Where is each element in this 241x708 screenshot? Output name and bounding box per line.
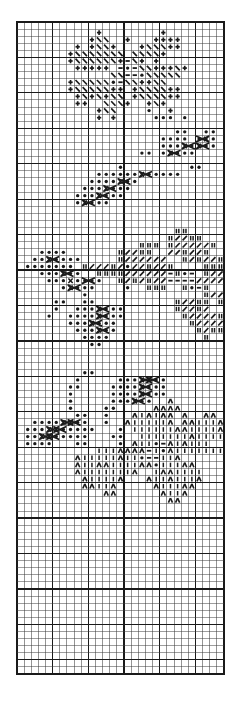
stitch-cell: [97, 87, 101, 92]
stitch-cell: [40, 421, 43, 424]
stitch-cell: [118, 52, 122, 57]
stitch-cell: [83, 314, 86, 317]
stitch-cell: [212, 243, 214, 248]
stitch-cell: [83, 414, 86, 417]
stitch-cell: [76, 201, 79, 204]
stitch-cell: [69, 314, 72, 317]
stitch-cell: [140, 80, 144, 85]
stitch-cell: [141, 250, 143, 255]
stitch-cell: [90, 94, 94, 99]
stitch-cell: [176, 406, 180, 411]
stitch-cell: [204, 130, 207, 133]
stitch-cell: [175, 236, 179, 241]
stitch-cell: [69, 435, 72, 438]
stitch-cell: [55, 307, 58, 310]
stitch-cell: [176, 307, 178, 312]
stitch-cell: [125, 257, 129, 262]
stitch-cell: [212, 328, 214, 333]
stitch-cell: [161, 470, 165, 475]
stitch-cell: [155, 116, 158, 119]
stitch-cell: [112, 399, 115, 402]
stitch-cell: [161, 491, 165, 496]
stitch-cell: [83, 101, 87, 106]
stitch-cell: [183, 484, 187, 489]
stitch-cell: [133, 94, 137, 99]
stitch-cell: [183, 130, 186, 133]
stitch-cell: [219, 257, 221, 262]
stitch-cell: [47, 272, 50, 275]
stitch-cell: [212, 137, 215, 140]
stitch-cell: [118, 94, 122, 99]
stitch-cell: [155, 392, 158, 395]
stitch-cell: [133, 264, 137, 269]
stitch-cell: [168, 66, 172, 71]
stitch-cell: [211, 278, 215, 283]
stitch-cell: [219, 314, 221, 319]
stitch-cell: [97, 30, 101, 35]
stitch-cell: [119, 173, 122, 176]
stitch-cell: [76, 80, 80, 85]
stitch-cell: [118, 59, 122, 64]
stitch-cell: [154, 80, 158, 85]
stitch-cell: [155, 442, 158, 445]
stitch-cell: [83, 80, 87, 85]
grid-lines: [17, 22, 224, 674]
stitch-cell: [90, 307, 93, 310]
stitch-cell: [183, 66, 187, 71]
stitch-cell: [112, 81, 115, 84]
stitch-cell: [161, 101, 165, 106]
stitch-cell: [147, 257, 151, 262]
stitch-cell: [119, 385, 122, 388]
stitch-cell: [154, 87, 158, 92]
stitch-cell: [104, 108, 108, 113]
stitch-cell: [147, 271, 151, 276]
stitch-cell: [211, 413, 215, 418]
stitch-cell: [154, 59, 158, 64]
stitch-cell: [47, 265, 50, 268]
stitch-cell: [176, 427, 180, 432]
stitch-cell: [90, 336, 93, 339]
stitch-cell: [154, 52, 158, 57]
stitch-cell: [190, 434, 194, 439]
stitch-cell: [97, 173, 100, 176]
stitch-cell: [175, 250, 179, 255]
stitch-cell: [83, 371, 86, 374]
stitch-cell: [205, 264, 207, 269]
stitch-cell: [119, 271, 121, 276]
stitch-cell: [84, 264, 86, 269]
stitch-cell: [83, 300, 86, 303]
stitch-cell: [105, 173, 108, 176]
stitch-cell: [112, 435, 115, 438]
stitch-cell: [83, 286, 86, 289]
stitch-cell: [184, 314, 186, 319]
stitch-cell: [97, 463, 101, 468]
stitch-cell: [26, 442, 29, 445]
stitch-cell: [183, 307, 187, 312]
stitch-cell: [190, 463, 194, 468]
stitch-cell: [118, 456, 122, 461]
stitch-cell: [68, 80, 72, 85]
knitting-chart-page: Knitting Stitch Chart: [0, 0, 241, 708]
stitch-cell: [104, 94, 108, 99]
stitch-cell: [204, 257, 208, 262]
stitch-cell: [183, 420, 187, 425]
stitch-cell: [111, 87, 115, 92]
stitch-cell: [134, 278, 136, 283]
stitch-cell: [69, 392, 72, 395]
stitch-cell: [40, 272, 43, 275]
stitch-cell: [161, 45, 165, 50]
stitch-cell: [126, 286, 129, 289]
stitch-cell: [119, 250, 121, 255]
stitch-cell: [111, 52, 115, 57]
stitch-cell: [198, 307, 200, 312]
stitch-cell: [104, 87, 108, 92]
stitch-cell: [133, 80, 137, 85]
stitch-cell: [76, 442, 79, 445]
stitch-cell: [112, 194, 115, 197]
stitch-cell: [83, 428, 86, 431]
stitch-cell: [97, 94, 101, 99]
stitch-cell: [68, 278, 72, 283]
stitch-cell: [161, 264, 165, 269]
stitch-cell: [148, 250, 150, 255]
stitch-cell: [119, 307, 122, 310]
